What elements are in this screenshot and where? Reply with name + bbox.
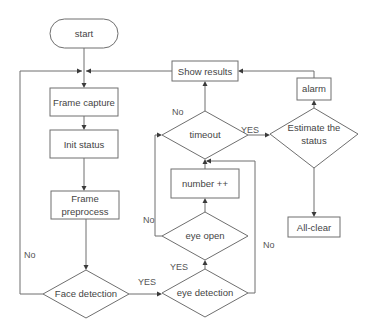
node-estimate-status-line1: Estimate the <box>288 122 341 133</box>
node-frame-preprocess-line2: preprocess <box>62 206 109 217</box>
node-estimate-status-line2: status <box>301 135 327 146</box>
edge-estimate-to-all-clear <box>312 168 317 217</box>
node-init-status-label: Init status <box>64 139 105 150</box>
edge-eye-open-to-number <box>203 198 208 212</box>
label-eye-detection-yes: YES <box>170 262 188 272</box>
label-face-no: No <box>24 250 36 260</box>
node-eye-detection-label: eye detection <box>177 287 234 298</box>
label-face-yes: YES <box>138 277 156 287</box>
label-timeout-no: No <box>172 107 184 117</box>
node-start[interactable]: start <box>50 19 118 48</box>
label-eye-open-no: No <box>143 215 155 225</box>
node-alarm[interactable]: alarm <box>297 78 331 100</box>
edge-eye-detection-yes-to-eye-open <box>203 260 208 269</box>
node-init-status[interactable]: Init status <box>50 130 118 158</box>
node-timeout-label: timeout <box>189 129 221 140</box>
edge-number-to-timeout <box>203 159 208 169</box>
edge-face-yes-to-eye-detection <box>129 292 162 297</box>
edge-show-results-to-junction <box>86 69 172 74</box>
node-alarm-label: alarm <box>302 83 326 94</box>
label-eye-detection-no: No <box>263 240 275 250</box>
node-frame-capture[interactable]: Frame capture <box>50 88 118 116</box>
node-face-detection[interactable]: Face detection <box>43 270 129 318</box>
node-show-results[interactable]: Show results <box>172 61 238 81</box>
node-number-increment-label: number ++ <box>182 178 228 189</box>
node-timeout[interactable]: timeout <box>162 111 248 159</box>
node-start-label: start <box>75 28 94 39</box>
node-estimate-status[interactable]: Estimate the status <box>270 108 358 168</box>
node-frame-capture-label: Frame capture <box>53 97 115 108</box>
edge-eye-open-no-to-timeout <box>155 133 162 237</box>
node-all-clear-label: All-clear <box>297 222 331 233</box>
node-eye-open-label: eye open <box>185 230 224 241</box>
node-frame-preprocess[interactable]: Frame preprocess <box>51 191 119 219</box>
node-show-results-label: Show results <box>178 66 233 77</box>
node-face-detection-label: Face detection <box>55 288 117 299</box>
node-all-clear[interactable]: All-clear <box>288 217 340 237</box>
flowchart-canvas: start Frame capture Init status Frame pr… <box>0 0 376 327</box>
edge-frame-capture-to-init <box>82 116 87 130</box>
node-eye-open[interactable]: eye open <box>162 212 248 260</box>
edge-start-to-frame-capture <box>82 48 87 88</box>
edge-alarm-to-show-results <box>238 69 314 79</box>
edge-timeout-no-to-show-results <box>203 81 208 111</box>
edge-estimate-to-alarm <box>312 100 317 108</box>
node-frame-preprocess-line1: Frame <box>71 193 98 204</box>
edge-init-to-preprocess <box>82 158 87 191</box>
edge-preprocess-to-face <box>84 219 89 270</box>
node-number-increment[interactable]: number ++ <box>171 169 239 198</box>
label-timeout-yes: YES <box>241 125 259 135</box>
node-eye-detection[interactable]: eye detection <box>162 269 248 317</box>
